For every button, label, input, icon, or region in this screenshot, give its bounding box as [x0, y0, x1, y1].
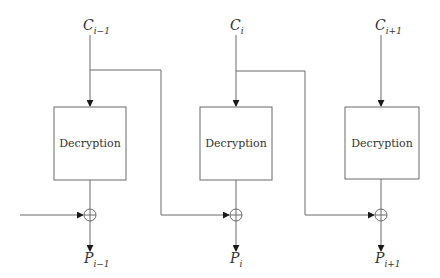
input-label-c-i: Ci — [230, 17, 244, 36]
output-label-p-i: Pi — [229, 250, 242, 269]
decryption-label-3: Decryption — [351, 137, 413, 150]
xor-icon — [375, 209, 387, 221]
output-label-p-i-minus-1: Pi−1 — [83, 250, 110, 269]
input-label-c-i-plus-1: Ci+1 — [375, 17, 402, 36]
stage-1: Ci−1 Decryption Pi−1 — [20, 17, 126, 269]
stage-3: Ci+1 Decryption Pi+1 — [345, 17, 419, 269]
output-label-p-i-plus-1: Pi+1 — [374, 250, 401, 269]
xor-icon — [230, 209, 242, 221]
stage-2: Ci Decryption Pi — [200, 17, 272, 269]
input-label-c-i-minus-1: Ci−1 — [83, 17, 110, 36]
decryption-label-2: Decryption — [205, 137, 267, 150]
xor-icon — [84, 209, 96, 221]
decryption-label-1: Decryption — [59, 137, 121, 150]
cbc-decryption-diagram: Ci−1 Decryption Pi−1 Ci Decryption Pi Ci… — [0, 0, 440, 278]
